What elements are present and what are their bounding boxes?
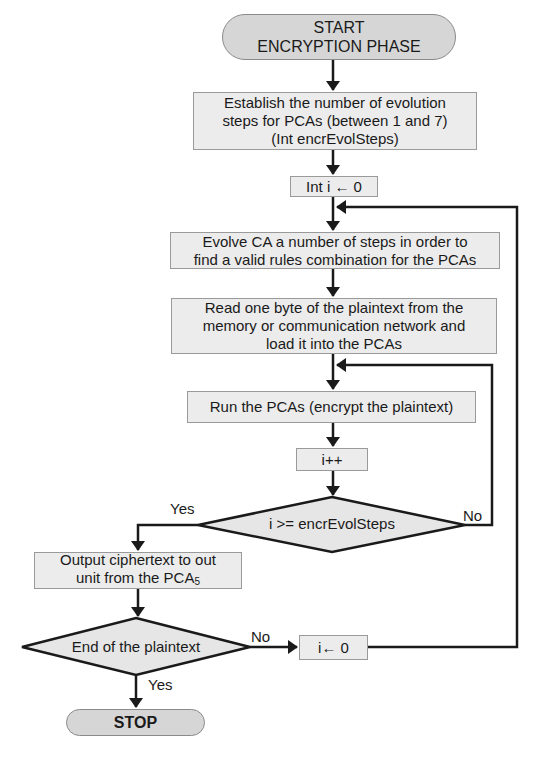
establish-line2: steps for PCAs (between 1 and 7) bbox=[222, 112, 447, 130]
establish-steps-box: Establish the number of evolution steps … bbox=[193, 92, 477, 150]
output-line2-text: unit from the PCA bbox=[76, 569, 194, 586]
init-i-box: Int i ← 0 bbox=[290, 176, 378, 197]
read-plaintext-box: Read one byte of the plaintext from the … bbox=[171, 298, 497, 354]
run-text: Run the PCAs (encrypt the plaintext) bbox=[210, 398, 453, 416]
decision2-yes-label: Yes bbox=[148, 676, 172, 694]
read-line3: load it into the PCAs bbox=[203, 335, 466, 353]
stop-terminal: STOP bbox=[66, 709, 205, 736]
decision2-no-label: No bbox=[251, 628, 270, 646]
output-line1: Output ciphertext to out bbox=[60, 551, 216, 569]
establish-line3: (Int encrEvolSteps) bbox=[222, 130, 447, 148]
decision2-text: End of the plaintext bbox=[46, 638, 226, 655]
output-line2: unit from the PCA5 bbox=[60, 569, 216, 591]
init-i-text: Int i ← 0 bbox=[306, 178, 362, 196]
reset-i-text: i← 0 bbox=[318, 639, 349, 657]
start-line1: START bbox=[257, 18, 420, 37]
decision1-no-label: No bbox=[463, 507, 482, 525]
increment-i-box: i++ bbox=[296, 448, 368, 471]
read-line1: Read one byte of the plaintext from the bbox=[203, 299, 466, 317]
start-line2: ENCRYPTION PHASE bbox=[257, 37, 420, 56]
output-ciphertext-box: Output ciphertext to out unit from the P… bbox=[34, 552, 242, 589]
evolve-ca-box: Evolve CA a number of steps in order to … bbox=[170, 232, 500, 269]
read-line2: memory or communication network and bbox=[203, 317, 466, 335]
increment-text: i++ bbox=[322, 451, 343, 469]
evolve-line1: Evolve CA a number of steps in order to bbox=[194, 233, 477, 251]
evolve-line2: find a valid rules combination for the P… bbox=[194, 251, 477, 269]
establish-line1: Establish the number of evolution bbox=[222, 94, 447, 112]
decision1-yes-label: Yes bbox=[170, 500, 194, 518]
start-terminal: START ENCRYPTION PHASE bbox=[222, 14, 456, 60]
output-line2-subscript: 5 bbox=[194, 576, 200, 587]
decision1-text: i >= encrEvolSteps bbox=[232, 515, 432, 532]
run-pcas-box: Run the PCAs (encrypt the plaintext) bbox=[187, 391, 476, 423]
stop-text: STOP bbox=[114, 713, 157, 732]
reset-i-box: i← 0 bbox=[299, 635, 368, 660]
